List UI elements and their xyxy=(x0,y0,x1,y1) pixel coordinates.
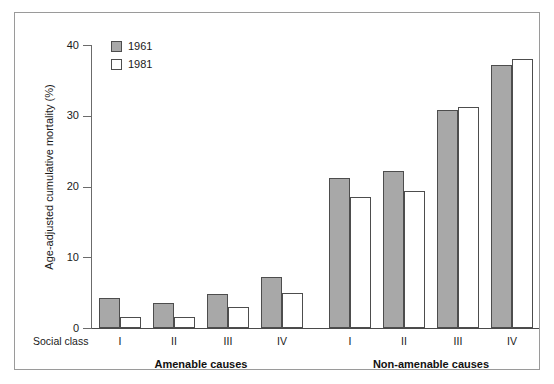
y-axis-title: Age-adjusted cumulative mortality (%) xyxy=(43,47,55,307)
bar-non-amenable-causes-I-1961 xyxy=(329,178,350,328)
bar-amenable-causes-II-1961 xyxy=(153,303,174,328)
bar-amenable-causes-IV-1981 xyxy=(282,293,303,328)
bar-amenable-causes-II-1981 xyxy=(174,317,195,328)
y-tick-label-10: 10 xyxy=(53,252,79,263)
x-category-label-non-amenable-causes-I: I xyxy=(323,335,377,347)
group-label-amenable: Amenable causes xyxy=(91,358,311,370)
bar-non-amenable-causes-IV-1981 xyxy=(512,59,533,328)
bar-non-amenable-causes-III-1981 xyxy=(458,107,479,328)
y-tick-mark-40 xyxy=(83,45,92,46)
group-label-non-amenable: Non-amenable causes xyxy=(321,358,541,370)
bar-amenable-causes-IV-1961 xyxy=(261,277,282,328)
bar-non-amenable-causes-III-1961 xyxy=(437,110,458,328)
bar-non-amenable-causes-II-1961 xyxy=(383,171,404,328)
bar-non-amenable-causes-II-1981 xyxy=(404,191,425,328)
legend-label-1961: 1961 xyxy=(128,41,152,52)
y-tick-mark-20 xyxy=(83,187,92,188)
bar-amenable-causes-III-1961 xyxy=(207,294,228,328)
y-tick-label-40: 40 xyxy=(53,40,79,51)
y-tick-mark-0 xyxy=(83,328,92,329)
x-category-label-amenable-causes-IV: IV xyxy=(255,335,309,347)
legend-label-1981: 1981 xyxy=(128,59,152,70)
y-tick-mark-30 xyxy=(83,116,92,117)
legend-swatch-1981-icon xyxy=(111,59,122,70)
bar-non-amenable-causes-IV-1961 xyxy=(491,65,512,328)
x-axis-prefix-label: Social class xyxy=(33,335,88,347)
x-category-label-amenable-causes-II: II xyxy=(147,335,201,347)
x-category-label-non-amenable-causes-III: III xyxy=(431,335,485,347)
y-tick-label-0-wrap: 0 xyxy=(49,323,79,334)
y-tick-label-30: 30 xyxy=(53,110,79,121)
figure-frame: 1961 1981 40 30 20 10 0 Age-adjusted cum… xyxy=(14,12,540,370)
bar-amenable-causes-I-1981 xyxy=(120,317,141,328)
bar-amenable-causes-I-1961 xyxy=(99,298,120,328)
legend-swatch-1961-icon xyxy=(111,41,122,52)
x-category-label-non-amenable-causes-IV: IV xyxy=(485,335,539,347)
y-tick-label-0: 0 xyxy=(53,323,79,334)
y-tick-label-20: 20 xyxy=(53,181,79,192)
x-category-label-amenable-causes-III: III xyxy=(201,335,255,347)
bar-amenable-causes-III-1981 xyxy=(228,307,249,328)
x-category-label-non-amenable-causes-II: II xyxy=(377,335,431,347)
x-axis-line xyxy=(91,328,539,329)
chart-legend: 1961 1981 xyxy=(111,37,152,73)
x-category-label-amenable-causes-I: I xyxy=(93,335,147,347)
bar-non-amenable-causes-I-1981 xyxy=(350,197,371,328)
y-tick-mark-10 xyxy=(83,257,92,258)
legend-item-1961: 1961 xyxy=(111,37,152,55)
legend-item-1981: 1981 xyxy=(111,55,152,73)
